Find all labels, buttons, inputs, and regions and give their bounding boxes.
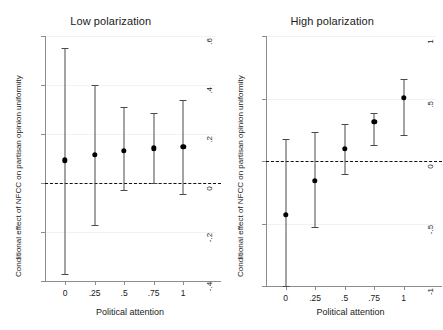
- error-bar-cap-lower: [121, 190, 128, 191]
- gridline: [266, 224, 436, 225]
- gridline: [266, 36, 436, 37]
- y-tick: [262, 36, 266, 37]
- gridline: [45, 85, 215, 86]
- y-tick-label: -.2: [205, 231, 214, 245]
- panel-low-polarization: Low polarization Conditional effect of N…: [0, 0, 222, 330]
- data-point: [342, 146, 347, 151]
- x-tick-label: .75: [368, 293, 380, 303]
- error-bar-cap-lower: [312, 227, 319, 228]
- gridline: [45, 36, 215, 37]
- error-bar-cap-lower: [400, 135, 407, 136]
- zero-reference-line: [266, 161, 442, 162]
- error-bar-cap-upper: [180, 100, 187, 101]
- panel-title: High polarization: [222, 15, 443, 27]
- data-point: [151, 146, 156, 151]
- y-tick-label: -.5: [425, 222, 434, 236]
- y-tick: [41, 85, 45, 86]
- data-point: [283, 212, 288, 217]
- gridline: [45, 134, 215, 135]
- error-bar-cap-lower: [150, 183, 157, 184]
- x-axis-label: Political attention: [45, 307, 215, 317]
- y-tick-label: .6: [205, 35, 214, 49]
- error-bar-cap-upper: [91, 85, 98, 86]
- x-tick-label: .25: [89, 288, 101, 298]
- y-tick-label: .5: [425, 97, 434, 111]
- error-bar-cap-upper: [312, 132, 319, 133]
- y-tick-label: 1: [425, 35, 434, 49]
- x-tick-label: 1: [181, 288, 186, 298]
- y-axis-line: [45, 36, 46, 281]
- x-axis-line: [266, 286, 442, 287]
- x-tick: [315, 286, 316, 290]
- x-tick-label: 0: [283, 293, 288, 303]
- x-tick: [374, 286, 375, 290]
- x-tick: [95, 281, 96, 285]
- gridline: [266, 99, 436, 100]
- y-tick: [41, 134, 45, 135]
- figure-container: Low polarization Conditional effect of N…: [0, 0, 443, 330]
- zero-reference-line: [45, 183, 221, 184]
- data-point: [62, 158, 67, 163]
- error-bar: [403, 79, 404, 135]
- y-tick-label: .4: [205, 84, 214, 98]
- error-bar: [374, 113, 375, 146]
- error-bar-cap-upper: [121, 107, 128, 108]
- x-axis-label: Political attention: [266, 307, 436, 317]
- error-bar-cap-upper: [400, 79, 407, 80]
- y-tick-label: .2: [205, 133, 214, 147]
- error-bar-cap-upper: [150, 113, 157, 114]
- x-tick: [183, 281, 184, 285]
- error-bar-cap-upper: [282, 139, 289, 140]
- y-tick: [262, 286, 266, 287]
- y-tick: [41, 36, 45, 37]
- x-axis-line: [45, 281, 221, 282]
- y-tick: [262, 224, 266, 225]
- plot-area-high: 1.50-.5-10.25.5.751: [266, 36, 436, 286]
- x-tick: [154, 281, 155, 285]
- x-tick: [124, 281, 125, 285]
- gridline: [45, 232, 215, 233]
- error-bar-cap-upper: [62, 48, 69, 49]
- x-tick-label: .5: [341, 293, 348, 303]
- y-tick-label: -1: [425, 285, 434, 299]
- error-bar-cap-lower: [62, 274, 69, 275]
- x-tick-label: 1: [401, 293, 406, 303]
- error-bar-cap-lower: [282, 286, 289, 287]
- x-tick: [404, 286, 405, 290]
- x-tick-label: .25: [309, 293, 321, 303]
- y-tick: [262, 99, 266, 100]
- y-axis-label: Conditional effect of NFCC on partisan o…: [14, 75, 23, 277]
- y-tick: [41, 281, 45, 282]
- data-point: [312, 178, 317, 183]
- error-bar-cap-upper: [341, 124, 348, 125]
- data-point: [121, 148, 126, 153]
- y-tick-label: -.4: [205, 280, 214, 294]
- panel-high-polarization: High polarization Conditional effect of …: [222, 0, 443, 330]
- error-bar-cap-lower: [180, 194, 187, 195]
- x-tick-label: 0: [63, 288, 68, 298]
- data-point: [92, 152, 97, 157]
- y-tick: [41, 232, 45, 233]
- x-tick-label: .75: [148, 288, 160, 298]
- x-tick: [345, 286, 346, 290]
- error-bar-cap-lower: [371, 145, 378, 146]
- error-bar-cap-lower: [91, 225, 98, 226]
- data-point: [371, 119, 376, 124]
- y-axis-label: Conditional effect of NFCC on partisan o…: [236, 75, 245, 277]
- x-tick: [65, 281, 66, 285]
- plot-area-low: .6.4.20-.2-.40.25.5.751: [45, 36, 215, 281]
- data-point: [180, 144, 185, 149]
- error-bar-cap-upper: [371, 113, 378, 114]
- x-tick-label: .5: [121, 288, 128, 298]
- error-bar-cap-lower: [341, 174, 348, 175]
- panel-title: Low polarization: [0, 15, 222, 27]
